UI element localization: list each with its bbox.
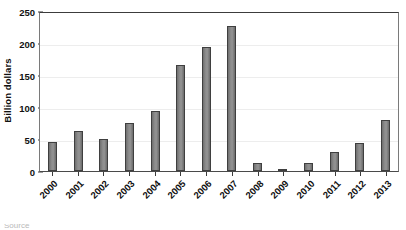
bar <box>330 152 339 171</box>
y-axis-tick-label: 100 <box>19 103 35 114</box>
bar <box>381 120 390 171</box>
x-axis-tick-labels: 2000200120022003200420052006200720082009… <box>39 172 399 230</box>
x-axis-tick-label: 2009 <box>268 178 291 201</box>
x-axis-tick-mark <box>155 172 156 176</box>
bar-series <box>40 13 398 171</box>
bar-slot <box>66 13 92 171</box>
x-axis-tick-label: 2010 <box>294 178 317 201</box>
bar <box>278 169 287 171</box>
y-axis-tick-label: 50 <box>24 135 35 146</box>
x-axis-tick-label: 2002 <box>88 178 111 201</box>
y-axis-title-text: Billion dollars <box>2 58 13 122</box>
y-axis-tick-label: 250 <box>19 7 35 18</box>
bar <box>202 47 211 171</box>
bar-slot <box>245 13 271 171</box>
bar-slot <box>142 13 168 171</box>
bar-slot <box>296 13 322 171</box>
x-axis-tick-mark <box>180 172 181 176</box>
y-axis-title: Billion dollars <box>0 0 14 180</box>
x-axis-tick-mark <box>360 172 361 176</box>
x-axis-tick-mark <box>78 172 79 176</box>
x-axis-tick-mark <box>129 172 130 176</box>
y-axis-tick-labels: 050100150200250 <box>14 12 38 172</box>
x-axis-tick-label: 2007 <box>217 178 240 201</box>
bar <box>74 131 83 171</box>
x-axis-tick-label: 2012 <box>345 178 368 201</box>
x-axis-tick-mark <box>283 172 284 176</box>
x-axis-tick-mark <box>232 172 233 176</box>
x-axis-tick-mark <box>206 172 207 176</box>
x-axis-tick-label: 2004 <box>140 178 163 201</box>
bar <box>151 111 160 171</box>
bar <box>176 65 185 171</box>
bar-slot <box>270 13 296 171</box>
bar-slot <box>347 13 373 171</box>
x-axis-tick-label: 2005 <box>165 178 188 201</box>
x-axis-tick-label: 2008 <box>243 178 266 201</box>
plot-area <box>39 12 399 172</box>
x-axis-tick-label: 2001 <box>63 178 86 201</box>
y-axis-tick-label: 200 <box>19 39 35 50</box>
x-axis-tick-mark <box>309 172 310 176</box>
x-axis-tick-label: 2011 <box>320 178 342 200</box>
bar-slot <box>193 13 219 171</box>
y-axis-tick-label: 150 <box>19 71 35 82</box>
x-axis-tick-mark <box>386 172 387 176</box>
x-axis-tick-label: 2003 <box>114 178 137 201</box>
bar-slot <box>117 13 143 171</box>
bar <box>304 163 313 171</box>
x-axis-tick-mark <box>335 172 336 176</box>
bar-slot <box>40 13 66 171</box>
x-axis-tick-mark <box>258 172 259 176</box>
bar <box>227 26 236 171</box>
x-axis-tick-mark <box>52 172 53 176</box>
bar <box>125 123 134 171</box>
bar-slot <box>91 13 117 171</box>
bar-chart-figure: Billion dollars 050100150200250 20002001… <box>0 0 406 230</box>
bar-slot <box>219 13 245 171</box>
caption-fragment-text: Source <box>4 224 184 230</box>
x-axis-tick-label: 2013 <box>371 178 394 201</box>
bar-slot <box>168 13 194 171</box>
bar <box>253 163 262 171</box>
x-axis-tick-label: 2006 <box>191 178 214 201</box>
bar <box>99 139 108 171</box>
bar <box>355 143 364 171</box>
bar <box>48 142 57 171</box>
x-axis-tick-label: 2000 <box>37 178 60 201</box>
x-axis-tick-mark <box>103 172 104 176</box>
caption-fragment: Source <box>4 224 184 230</box>
bar-slot <box>373 13 399 171</box>
y-axis-tick-label: 0 <box>30 167 35 178</box>
bar-slot <box>321 13 347 171</box>
